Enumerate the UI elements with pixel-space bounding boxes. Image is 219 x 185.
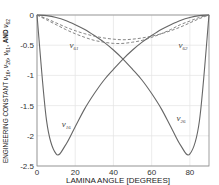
series-line-ν26: [37, 15, 209, 155]
y-tick-label: -1: [27, 71, 35, 80]
y-axis-label: ENGINEERING CONSTANT ν16, ν26, ν61, AND …: [2, 19, 11, 163]
curve-label: ν16: [62, 119, 72, 130]
chart: 020406080 0-0.5-1-1.5-2-2.5 ν61ν62ν16ν26…: [0, 0, 219, 185]
y-tick-label: 0: [30, 11, 35, 20]
y-axis-ticks: 0-0.5-1-1.5-2-2.5: [20, 11, 34, 171]
curve-label: ν61: [69, 40, 78, 51]
series-line-ν62: [37, 15, 209, 40]
grid: [37, 15, 209, 166]
y-tick-label: -2: [27, 132, 35, 141]
x-tick-label: 80: [185, 168, 194, 177]
curve-label: ν62: [178, 40, 188, 51]
series-group: [37, 15, 209, 155]
series-line-ν16: [37, 15, 209, 155]
y-tick-label: -2.5: [20, 162, 34, 171]
y-tick-label: -0.5: [20, 41, 34, 50]
x-tick-label: 0: [35, 168, 40, 177]
y-tick-label: -1.5: [20, 102, 34, 111]
plot-area: [37, 15, 209, 166]
x-axis-label: LAMINA ANGLE [DEGREES]: [66, 176, 170, 185]
curve-label: ν26: [177, 113, 187, 124]
